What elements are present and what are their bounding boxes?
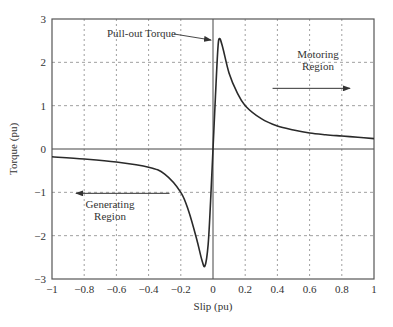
- y-axis-tick-labels: −3−2−10123: [34, 13, 46, 285]
- generating-region-annotation: Generating Region: [76, 193, 169, 222]
- y-tick-label: 1: [41, 100, 47, 112]
- x-axis-tick-labels: −1−0.8−0.6−0.4−0.200.20.40.60.81: [46, 283, 377, 295]
- pull-out-torque-label: Pull-out Torque: [107, 27, 176, 39]
- x-tick-label: 0.4: [271, 283, 285, 295]
- y-tick-label: 0: [41, 143, 47, 155]
- x-tick-label: −0.4: [139, 283, 159, 295]
- x-tick-label: 1: [371, 283, 377, 295]
- x-tick-label: −0.8: [74, 283, 94, 295]
- x-axis-label: Slip (pu): [194, 300, 233, 313]
- x-tick-label: 0.2: [238, 283, 252, 295]
- x-tick-label: −1: [46, 283, 58, 295]
- y-tick-label: −2: [34, 230, 46, 242]
- pull-out-torque-annotation: Pull-out Torque: [107, 27, 211, 40]
- x-tick-label: −0.2: [171, 283, 191, 295]
- x-tick-label: 0.6: [303, 283, 317, 295]
- motoring-region-label-line2: Region: [302, 60, 334, 72]
- generating-region-label-line2: Region: [94, 210, 126, 222]
- generating-region-label-line1: Generating: [86, 198, 135, 210]
- torque-slip-chart: −1−0.8−0.6−0.4−0.200.20.40.60.81 −3−2−10…: [0, 0, 393, 327]
- pull-out-torque-pointer: [174, 34, 211, 40]
- y-axis-label: Torque (pu): [7, 123, 20, 175]
- motoring-region-label-line1: Motoring: [297, 48, 339, 60]
- x-tick-label: 0.8: [335, 283, 349, 295]
- motoring-region-annotation: Motoring Region: [273, 48, 350, 88]
- x-tick-label: 0: [210, 283, 216, 295]
- y-tick-label: −1: [34, 186, 46, 198]
- y-tick-label: 2: [41, 56, 47, 68]
- x-tick-label: −0.6: [106, 283, 126, 295]
- y-tick-label: 3: [41, 13, 47, 25]
- y-tick-label: −3: [34, 273, 46, 285]
